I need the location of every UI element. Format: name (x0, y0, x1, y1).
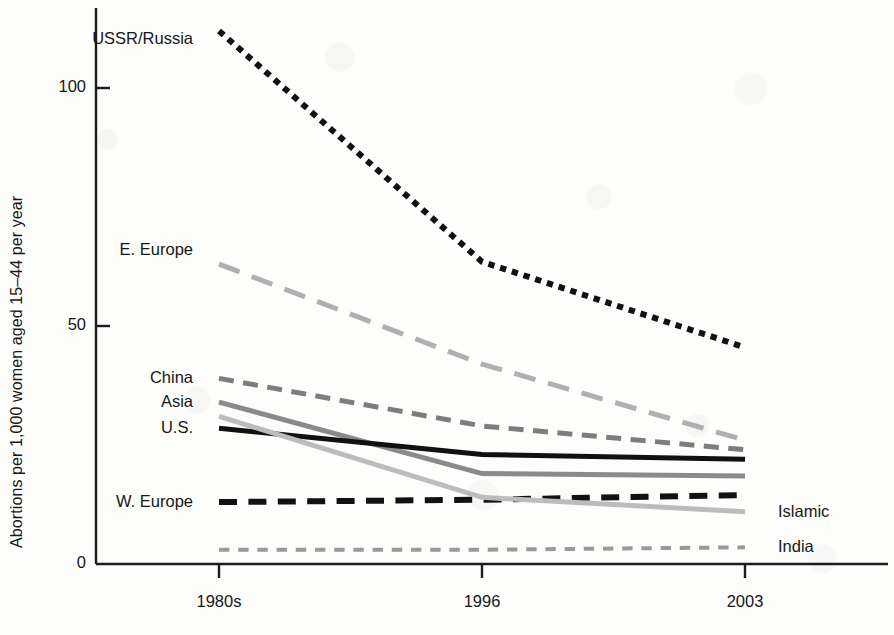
line-chart-plot (0, 0, 894, 635)
series-label-asia: Asia (5, 392, 205, 411)
series-label-islamic: Islamic (778, 502, 829, 521)
series-label-india: India (778, 537, 814, 556)
series-label-w-europe: W. Europe (5, 492, 205, 511)
series-label-ussr-russia: USSR/Russia (5, 29, 205, 48)
y-tick-label-0: 0 (30, 553, 86, 572)
axes-group (96, 8, 888, 564)
series-label-china: China (5, 368, 205, 387)
series-lines-group (219, 31, 745, 550)
y-tick-label-100: 100 (30, 77, 86, 96)
y-tick-label-50: 50 (30, 315, 86, 334)
series-line-e-europe (219, 264, 745, 440)
chart-figure: Abortions per 1,000 women aged 15–44 per… (0, 0, 894, 635)
series-line-ussr-russia (219, 31, 745, 348)
x-tick-label-2003: 2003 (685, 592, 805, 611)
series-line-india (219, 547, 745, 549)
x-tick-label-1996: 1996 (422, 592, 542, 611)
x-tick-label-1980s: 1980s (159, 592, 279, 611)
series-label-u-s: U.S. (5, 418, 205, 437)
series-label-e-europe: E. Europe (5, 240, 205, 259)
